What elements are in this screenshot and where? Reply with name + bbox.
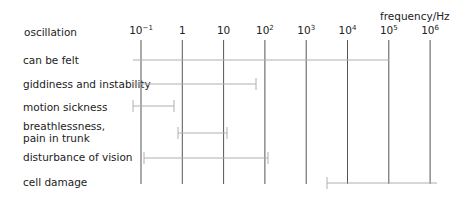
- plot-area: [0, 0, 458, 204]
- chart: frequency/Hz oscillation 10−111010210310…: [0, 0, 458, 204]
